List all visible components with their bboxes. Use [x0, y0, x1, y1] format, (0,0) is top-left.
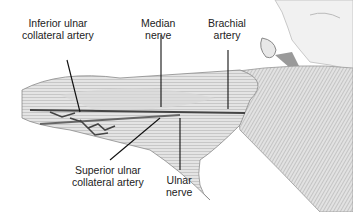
label-superior-ulnar-collateral-artery: Superior ulnar collateral artery [72, 164, 144, 188]
label-line: Superior ulnar [72, 164, 144, 176]
label-median-nerve: Median nerve [141, 17, 175, 41]
anatomy-illustration: Inferior ulnar collateral artery Median … [0, 0, 353, 212]
label-line: Ulnar [166, 174, 192, 186]
label-line: nerve [141, 29, 175, 41]
label-inferior-ulnar-collateral-artery: Inferior ulnar collateral artery [22, 17, 94, 41]
label-line: Brachial [208, 17, 246, 29]
label-line: Inferior ulnar [22, 17, 94, 29]
label-line: nerve [166, 186, 192, 198]
label-line: collateral artery [22, 29, 94, 41]
label-line: collateral artery [72, 176, 144, 188]
label-ulnar-nerve: Ulnar nerve [166, 174, 192, 198]
head [261, 0, 353, 70]
label-brachial-artery: Brachial artery [208, 17, 246, 41]
label-line: Median [141, 17, 175, 29]
label-line: artery [208, 29, 246, 41]
